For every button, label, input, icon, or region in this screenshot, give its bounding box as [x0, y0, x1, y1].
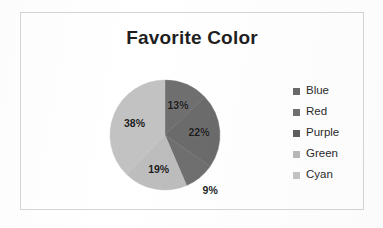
legend-item[interactable]: Blue — [293, 81, 371, 101]
slice-label-green: 19% — [148, 163, 169, 175]
legend-item-label: Blue — [306, 85, 329, 97]
legend-item-label: Purple — [306, 127, 339, 139]
legend-item-label: Green — [306, 148, 338, 160]
legend-item[interactable]: Green — [293, 144, 371, 164]
legend-item[interactable]: Cyan — [293, 165, 371, 185]
legend-swatch-icon — [293, 151, 300, 158]
slice-label-blue: 13% — [167, 99, 188, 111]
slice-label-purple: 9% — [203, 184, 218, 196]
legend-swatch-icon — [293, 172, 300, 179]
legend-swatch-icon — [293, 109, 300, 116]
chart-frame: Favorite Color 13% 22% 9% 19% 38% BlueRe… — [20, 12, 364, 210]
legend-swatch-icon — [293, 88, 300, 95]
pie-chart: 13% 22% 9% 19% 38% — [109, 79, 221, 191]
legend-item-label: Red — [306, 106, 327, 118]
legend-item[interactable]: Purple — [293, 123, 371, 143]
legend-swatch-icon — [293, 130, 300, 137]
legend-item-label: Cyan — [306, 169, 333, 181]
chart-title: Favorite Color — [21, 27, 363, 49]
chart-legend: BlueRedPurpleGreenCyan — [293, 81, 371, 186]
slice-label-red: 22% — [188, 126, 209, 138]
slice-label-cyan: 38% — [124, 117, 145, 129]
legend-item[interactable]: Red — [293, 102, 371, 122]
